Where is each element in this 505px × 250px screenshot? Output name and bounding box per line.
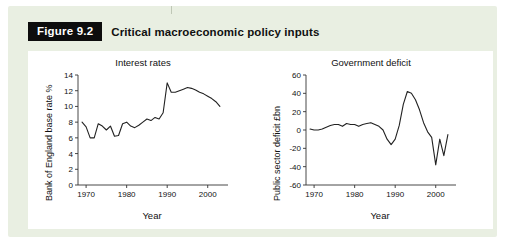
chart-government-deficit: Government deficit -60-40-20020406019701… — [260, 55, 482, 227]
svg-text:1980: 1980 — [118, 190, 136, 199]
charts-card: Interest rates 0246810121419701980199020… — [28, 51, 493, 229]
y-axis-label-interest-rates: Bank of England base rate % — [44, 84, 54, 201]
svg-text:0: 0 — [297, 126, 302, 135]
svg-text:1970: 1970 — [305, 190, 323, 199]
figure-caption: Figure 9.2 Critical macroeconomic policy… — [28, 22, 319, 41]
government-deficit-plot: -60-40-2002040601970198019902000 — [260, 55, 482, 227]
svg-text:40: 40 — [292, 89, 301, 98]
svg-text:14: 14 — [64, 71, 73, 80]
figure-title: Critical macroeconomic policy inputs — [111, 26, 319, 38]
stray-mark — [171, 6, 172, 14]
svg-text:1970: 1970 — [77, 190, 95, 199]
svg-text:10: 10 — [64, 102, 73, 111]
svg-text:6: 6 — [69, 134, 74, 143]
figure-number-badge: Figure 9.2 — [28, 22, 102, 41]
svg-text:-40: -40 — [289, 163, 301, 172]
chart-interest-rates: Interest rates 0246810121419701980199020… — [32, 55, 254, 227]
svg-text:60: 60 — [292, 71, 301, 80]
interest-rates-plot: 024681012141970198019902000 — [32, 55, 254, 227]
charts-container: Interest rates 0246810121419701980199020… — [28, 51, 493, 229]
svg-text:-60: -60 — [289, 181, 301, 190]
svg-text:2: 2 — [69, 165, 74, 174]
svg-text:-20: -20 — [289, 144, 301, 153]
svg-text:0: 0 — [69, 181, 74, 190]
figure-page: Figure 9.2 Critical macroeconomic policy… — [0, 0, 505, 250]
svg-text:1980: 1980 — [346, 190, 364, 199]
svg-text:20: 20 — [292, 108, 301, 117]
x-axis-label-government-deficit: Year — [305, 210, 455, 221]
svg-text:1990: 1990 — [158, 190, 176, 199]
svg-text:2000: 2000 — [427, 190, 445, 199]
svg-text:12: 12 — [64, 87, 73, 96]
x-axis-label-interest-rates: Year — [77, 210, 227, 221]
svg-text:8: 8 — [69, 118, 74, 127]
y-axis-label-government-deficit: Public sector deficit £bn — [272, 106, 282, 201]
svg-text:4: 4 — [69, 150, 74, 159]
figure-panel: Figure 9.2 Critical macroeconomic policy… — [8, 6, 497, 237]
svg-text:1990: 1990 — [386, 190, 404, 199]
svg-text:2000: 2000 — [199, 190, 217, 199]
